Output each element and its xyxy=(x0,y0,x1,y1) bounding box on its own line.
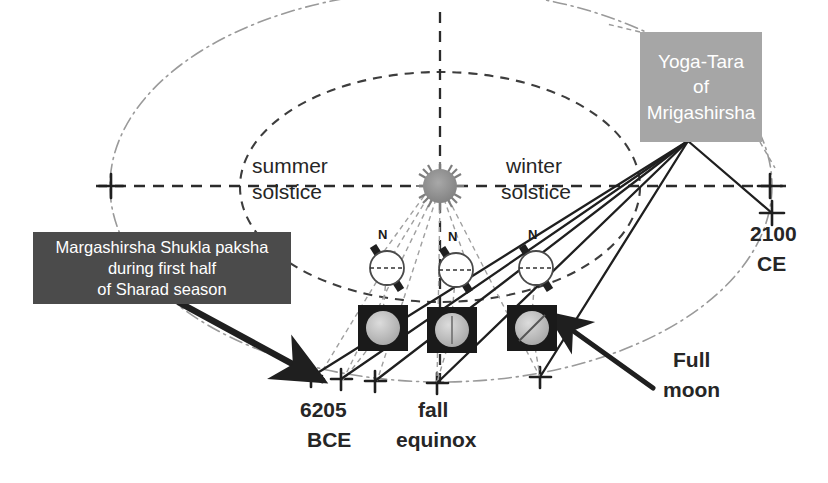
fall-equinox-line1: fall xyxy=(418,398,448,422)
full-moon-pointer xyxy=(551,315,653,388)
moon-center xyxy=(427,307,477,353)
earth-right xyxy=(519,246,553,290)
sun xyxy=(416,162,464,210)
summer-solstice-label-line1: summer xyxy=(252,154,328,178)
north-pole-label-left: N xyxy=(378,228,387,243)
yoga-tara-callout: Yoga-Tara of Mrigashirsha xyxy=(640,32,762,142)
epoch-2100-line2: CE xyxy=(757,252,786,276)
winter-solstice-label-line2: solstice xyxy=(501,180,571,204)
moon-left xyxy=(358,305,408,351)
epoch-6205-line1: 6205 xyxy=(300,398,347,422)
summer-solstice-label-line2: solstice xyxy=(252,180,322,204)
margashirsha-callout: Margashirsha Shukla paksha during first … xyxy=(33,232,291,304)
winter-solstice-label-line1: winter xyxy=(506,154,562,178)
full-moon-line1: Full xyxy=(673,348,710,372)
moon-right xyxy=(507,305,557,351)
full-moon-line2: moon xyxy=(663,378,720,402)
earth-center xyxy=(439,248,473,292)
fall-equinox-line2: equinox xyxy=(396,428,477,452)
precession-diagram: summer solstice winter solstice N N N 21… xyxy=(0,0,828,483)
north-pole-label-center: N xyxy=(448,230,457,245)
north-pole-label-right: N xyxy=(528,228,537,243)
margashirsha-pointer xyxy=(180,303,322,380)
epoch-6205-line2: BCE xyxy=(307,428,351,452)
epoch-2100-line1: 2100 xyxy=(750,222,797,246)
